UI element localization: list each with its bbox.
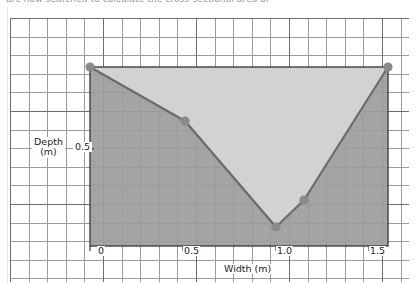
data-point-marker: [383, 62, 392, 71]
page-caption-strip: are now searched to calculate the cross-…: [0, 0, 419, 7]
data-point-marker: [180, 116, 189, 125]
x-axis-tick-1.0: 1.0: [276, 246, 293, 256]
y-axis-label: Depth (m): [32, 137, 65, 158]
x-axis-tick-0: 0: [97, 246, 105, 256]
cross-section-chart-svg: [10, 18, 409, 282]
data-point-marker: [271, 222, 280, 231]
y-axis-tick-0.5: 0.5: [73, 142, 92, 152]
x-axis-tick-1.5: 1.5: [369, 246, 386, 256]
cross-section-figure: Depth (m) 0.5 0 0.5 1.0 1.5 Width (m): [0, 7, 419, 283]
data-point-marker: [85, 62, 94, 71]
graph-paper-grid: Depth (m) 0.5 0 0.5 1.0 1.5 Width (m): [10, 18, 409, 282]
plot-area: [10, 18, 409, 282]
x-axis-label: Width (m): [222, 264, 273, 274]
data-point-marker: [299, 195, 308, 204]
page-caption-text: are now searched to calculate the cross-…: [6, 0, 269, 4]
x-axis-tick-0.5: 0.5: [183, 246, 200, 256]
y-axis-label-line2: (m): [34, 147, 63, 157]
page-left-margin: [0, 7, 8, 283]
